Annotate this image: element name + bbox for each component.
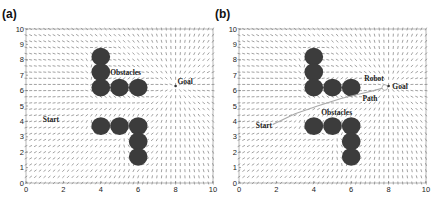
x-tick-label: 8 xyxy=(387,185,391,194)
annotation-start: Start xyxy=(43,115,60,124)
x-tick-label: 4 xyxy=(99,185,103,194)
vector-field xyxy=(238,28,428,185)
goal-marker xyxy=(387,85,390,88)
x-tick-label: 2 xyxy=(61,185,65,194)
obstacle xyxy=(129,148,148,166)
obstacle xyxy=(342,148,361,166)
obstacle xyxy=(342,117,361,135)
y-tick-label: 1 xyxy=(20,163,24,172)
obstacle xyxy=(129,133,148,151)
obstacle xyxy=(304,79,323,97)
y-tick-label: 5 xyxy=(233,102,237,111)
obstacle xyxy=(129,79,148,97)
robot-marker xyxy=(382,85,388,91)
y-tick-label: 9 xyxy=(233,40,237,49)
panel-a-plot: (a)ObstaclesGoalStart0246810012345678910 xyxy=(2,7,217,194)
obstacle xyxy=(91,79,110,97)
y-tick-label: 6 xyxy=(20,86,24,95)
y-tick-label: 0 xyxy=(233,179,237,188)
y-tick-label: 3 xyxy=(233,132,237,141)
y-tick-label: 7 xyxy=(233,71,237,80)
obstacle xyxy=(91,117,110,135)
x-tick-label: 2 xyxy=(274,185,278,194)
annotation-obstacles: Obstacles xyxy=(321,108,352,117)
x-tick-label: 0 xyxy=(24,185,28,194)
obstacle xyxy=(323,79,342,97)
annotation-goal: Goal xyxy=(177,77,192,86)
panel-label: (b) xyxy=(215,7,230,21)
panel-b-plot: (b)RobotGoalPathObstaclesStart0246810012… xyxy=(215,7,430,194)
figure: (a)ObstaclesGoalStart0246810012345678910… xyxy=(0,0,447,204)
x-tick-label: 8 xyxy=(174,185,178,194)
obstacle xyxy=(323,117,342,135)
annotation-path: Path xyxy=(362,94,378,103)
y-tick-label: 2 xyxy=(233,148,237,157)
y-tick-label: 0 xyxy=(20,179,24,188)
y-tick-label: 9 xyxy=(20,40,24,49)
y-tick-label: 6 xyxy=(233,86,237,95)
panel-label: (a) xyxy=(2,7,17,21)
y-tick-label: 10 xyxy=(16,25,24,34)
x-tick-label: 6 xyxy=(349,185,353,194)
x-tick-label: 10 xyxy=(422,185,430,194)
x-tick-label: 6 xyxy=(136,185,140,194)
annotation-obstacles: Obstacles xyxy=(110,68,141,77)
obstacle xyxy=(342,133,361,151)
obstacle xyxy=(342,79,361,97)
obstacle xyxy=(304,117,323,135)
obstacle xyxy=(110,79,129,97)
vector-field xyxy=(25,28,215,185)
y-tick-label: 8 xyxy=(233,55,237,64)
obstacle xyxy=(129,117,148,135)
annotation-start: Start xyxy=(256,121,273,130)
y-tick-label: 10 xyxy=(229,25,237,34)
obstacle xyxy=(91,48,110,66)
axes-frame xyxy=(26,29,213,183)
obstacle xyxy=(304,48,323,66)
annotation-goal: Goal xyxy=(392,82,407,91)
y-tick-label: 4 xyxy=(20,117,24,126)
axes-frame xyxy=(239,29,426,183)
x-tick-label: 0 xyxy=(237,185,241,194)
y-tick-label: 1 xyxy=(233,163,237,172)
y-tick-label: 7 xyxy=(20,71,24,80)
annotation-robot: Robot xyxy=(364,74,384,83)
obstacle xyxy=(110,117,129,135)
y-tick-label: 8 xyxy=(20,55,24,64)
y-tick-label: 3 xyxy=(20,132,24,141)
y-tick-label: 2 xyxy=(20,148,24,157)
x-tick-label: 10 xyxy=(209,185,217,194)
y-tick-label: 4 xyxy=(233,117,237,126)
x-tick-label: 4 xyxy=(312,185,316,194)
obstacle xyxy=(91,63,110,81)
y-tick-label: 5 xyxy=(20,102,24,111)
obstacle xyxy=(304,63,323,81)
